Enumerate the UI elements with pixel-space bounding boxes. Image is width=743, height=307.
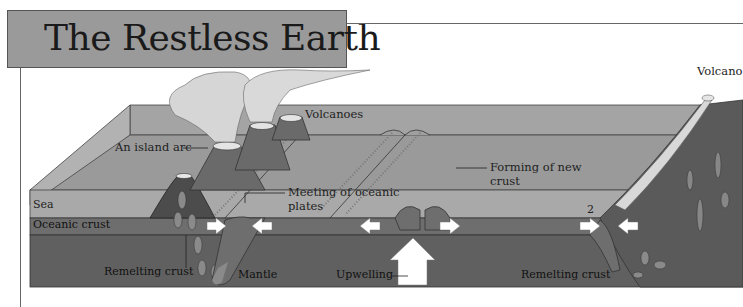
label-volcano-right: Volcano xyxy=(697,64,742,78)
label-forming-line2: crust xyxy=(490,174,520,188)
label-meeting-line2: plates xyxy=(288,199,323,213)
label-volcanoes: Volcanoes xyxy=(305,107,363,121)
label-upwelling: Upwelling xyxy=(336,268,393,281)
label-island-arc: An island arc xyxy=(115,140,192,154)
label-remelting-crust-left: Remelting crust xyxy=(104,265,193,278)
label-marker-2: 2 xyxy=(587,203,594,216)
label-meeting-line1: Meeting of oceanic xyxy=(288,185,400,199)
label-sea: Sea xyxy=(33,198,54,211)
plate-tectonics-diagram xyxy=(0,0,743,307)
label-oceanic-crust: Oceanic crust xyxy=(33,218,110,231)
label-remelting-crust-right: Remelting crust xyxy=(521,268,610,281)
label-forming-line1: Forming of new xyxy=(490,160,582,174)
label-mantle: Mantle xyxy=(238,268,277,281)
